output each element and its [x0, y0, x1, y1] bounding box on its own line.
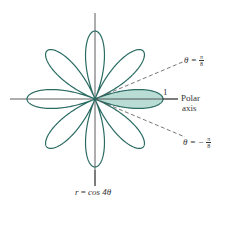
ray-upper-fraction: π8: [199, 54, 204, 67]
ray-upper-label: θ = π8: [184, 54, 204, 67]
equation-label: r = cos 4θ: [75, 188, 111, 197]
polar-axis-label-line1: Polar: [181, 94, 200, 103]
radius-tick-label: 1: [163, 88, 168, 97]
ray-lower-fraction: π8: [206, 136, 211, 149]
polar-axis-label-line2: axis: [181, 104, 200, 113]
ray-lower-lhs: θ = −: [183, 137, 204, 147]
ray-lower-label: θ = − π8: [183, 136, 211, 149]
polar-axis-label: Polar axis: [181, 94, 200, 113]
ray-upper-lhs: θ =: [184, 55, 197, 65]
origin-point: [93, 97, 96, 100]
